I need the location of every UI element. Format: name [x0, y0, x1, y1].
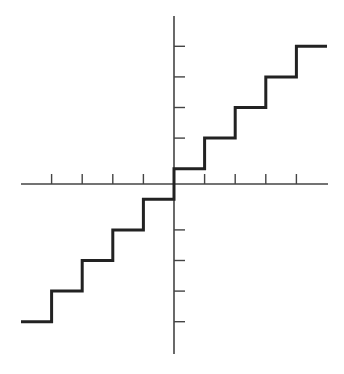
step-function-chart [0, 0, 344, 374]
